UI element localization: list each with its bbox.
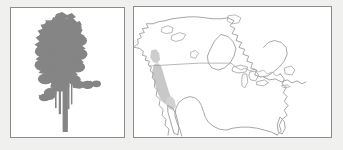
lake-michigan: [242, 74, 248, 88]
arctic-island-3: [191, 50, 199, 58]
north-america-map-graphic: [134, 7, 331, 137]
canada-us-border: [149, 63, 280, 76]
maritimes-coastline: [264, 77, 306, 84]
baja-california-coastline: [168, 105, 179, 135]
species-range-shading-north: [150, 49, 160, 63]
lake-erie-ontario: [257, 80, 269, 86]
gulf-coast-coastline: [175, 97, 277, 136]
long-island: [281, 85, 290, 88]
tree-silhouette-graphic: [11, 8, 124, 137]
arctic-island-4: [227, 15, 241, 24]
north-america-map: [134, 7, 331, 137]
arctic-island-2: [171, 33, 186, 42]
arctic-island-1: [161, 26, 173, 34]
tree-illustration: [11, 8, 124, 137]
figure-root: [0, 0, 343, 150]
tree-silhouette-panel: [10, 7, 125, 138]
range-map-panel: [133, 6, 332, 138]
species-range-shading-south: [166, 97, 176, 111]
hudson-bay-coastline: [207, 35, 236, 70]
newfoundland-island: [284, 66, 295, 75]
us-east-coastline: [277, 74, 288, 135]
